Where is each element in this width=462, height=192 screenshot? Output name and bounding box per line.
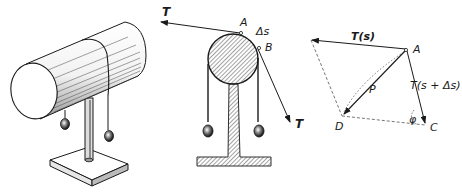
- label-tension-right: T: [295, 117, 304, 131]
- point-a-marker: [239, 31, 242, 34]
- weight-right-section: [254, 125, 264, 137]
- point-a-vector-marker: [404, 48, 407, 51]
- label-angle-phi: φ: [409, 113, 417, 126]
- label-point-b: B: [265, 41, 273, 54]
- cylinder-section: [208, 34, 258, 84]
- label-point-d: D: [335, 120, 343, 133]
- label-tension-left: T: [162, 5, 171, 19]
- diagram-canvas: T A Δs B T T(s) A T(s + Δs) P D C φ: [0, 0, 462, 192]
- label-resultant-p: P: [369, 83, 376, 96]
- perspective-panel: [6, 22, 146, 186]
- point-b-marker: [257, 46, 260, 49]
- label-point-a: A: [239, 16, 248, 29]
- tension-arrow-right: [258, 49, 290, 122]
- weight-right: [105, 96, 114, 142]
- tension-arrow-left: [161, 22, 240, 33]
- weight-left-section: [203, 125, 213, 137]
- label-t-s: T(s): [351, 30, 375, 43]
- stand-pole: [85, 98, 93, 162]
- label-t-s-ds: T(s + Δs): [410, 79, 461, 92]
- label-point-c: C: [430, 121, 438, 134]
- label-point-a-vector: A: [412, 43, 421, 56]
- force-diagram-panel: T(s) A T(s + Δs) P D C φ: [311, 30, 461, 134]
- cross-section-panel: T A Δs B T: [161, 5, 304, 166]
- dashed-line-left: [311, 40, 342, 116]
- cylinder: [6, 22, 146, 123]
- weight-left: [61, 110, 70, 130]
- label-arc-element: Δs: [255, 25, 270, 38]
